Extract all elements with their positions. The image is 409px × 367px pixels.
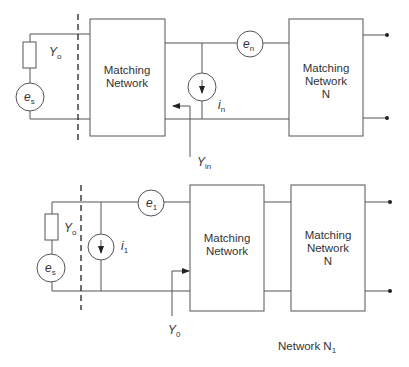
bottom-yo-label: Yo: [64, 221, 77, 237]
source-admittance-resistor-icon: [45, 214, 58, 240]
bottom-output-terminal-icon: [388, 200, 392, 204]
top-mn1-line2: Network: [106, 77, 148, 89]
top-mnn-line1: Matching: [303, 62, 350, 74]
top-output-terminal-icon: [385, 33, 389, 37]
i1-label: i1: [121, 239, 129, 255]
bottom-circuit: Yo es i1 e1 Y0 Matching Network Matching…: [37, 185, 392, 355]
noise-network-diagram: Yo es Matching Network en in Yin Matchin…: [0, 0, 409, 367]
top-circuit: Yo es Matching Network en in Yin Matchin…: [16, 14, 389, 171]
top-in-label: in: [218, 98, 225, 114]
top-mn1-line1: Matching: [104, 64, 151, 76]
bottom-mnn-line2: Network: [307, 242, 349, 254]
yin-label: Yin: [197, 155, 211, 171]
y0-arrow-icon: [172, 271, 189, 316]
bottom-mn1-line1: Matching: [204, 232, 251, 244]
bottom-mnn-line3: N: [324, 255, 332, 267]
top-yo-label: Yo: [49, 45, 62, 61]
yin-arrow-icon: [173, 106, 190, 157]
bottom-mnn-line1: Matching: [305, 229, 352, 241]
top-output-terminal-icon: [385, 116, 389, 120]
y0-label: Y0: [168, 323, 181, 339]
bottom-mn1-line2: Network: [206, 245, 248, 257]
top-mnn-line2: Network: [305, 75, 347, 87]
top-mnn-line3: N: [322, 88, 330, 100]
network-n1-caption: Network N1: [278, 340, 337, 355]
bottom-output-terminal-icon: [388, 289, 392, 293]
source-admittance-resistor-icon: [23, 42, 36, 68]
